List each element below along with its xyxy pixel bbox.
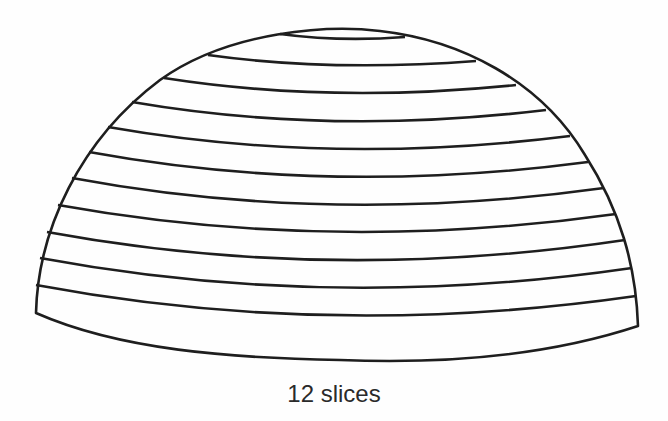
slice-line [132,102,546,121]
slice-line [47,232,625,260]
slice-line [108,127,570,149]
slice-line [40,258,632,288]
slice-line [208,55,476,65]
slice-line [36,285,636,316]
slice-line [89,152,588,177]
slice-line [164,78,516,93]
slice-lines [36,34,636,316]
slice-line [58,205,616,232]
slice-line [280,34,405,39]
caption: 12 slices [0,380,668,408]
slice-line [72,178,604,205]
hemisphere-diagram: 12 slices [0,0,668,421]
dome-figure [0,0,668,421]
